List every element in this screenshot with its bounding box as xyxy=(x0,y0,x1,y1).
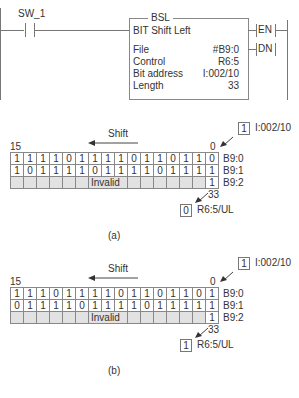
invalid-bit-cell xyxy=(167,312,180,324)
bit-cell: 1 xyxy=(180,165,193,177)
invalid-bit-cell xyxy=(37,177,50,189)
invalid-bit-cell: Invalid xyxy=(89,312,102,324)
invalid-bit-cell xyxy=(167,177,180,189)
invalid-bit-cell xyxy=(76,312,89,324)
bit-table: 11101111011011010111101111011111Invalid1 xyxy=(10,287,219,324)
param-file-name: File xyxy=(133,44,149,56)
invalid-bit-cell xyxy=(180,177,193,189)
invalid-bit-cell: Invalid xyxy=(89,177,102,189)
bit-shift-panel-a: Shift 15 0 1 I:002/10 111101111011011010… xyxy=(0,120,299,250)
bit-cell: 1 xyxy=(115,300,128,312)
bsl-title: BIT Shift Left xyxy=(133,25,191,37)
shift-arrow-icon xyxy=(88,275,138,281)
row-label-1: B9:1 xyxy=(223,165,244,177)
bit-cell: 1 xyxy=(37,165,50,177)
bit-cell: 1 xyxy=(24,300,37,312)
bit-cell: 1 xyxy=(24,153,37,165)
bit-cell: 1 xyxy=(154,300,167,312)
invalid-bit-cell xyxy=(128,312,141,324)
invalid-bit-cell xyxy=(24,177,37,189)
bit-cell: 1 xyxy=(37,288,50,300)
invalid-bit-cell xyxy=(24,312,37,324)
bit-cell: 1 xyxy=(206,312,219,324)
bit-cell: 1 xyxy=(50,153,63,165)
param-length-value: 33 xyxy=(228,80,239,92)
bit-cell: 1 xyxy=(50,300,63,312)
bit-cell: 1 xyxy=(167,288,180,300)
bit-cell: 1 xyxy=(102,288,115,300)
row-label-2: B9:2 xyxy=(223,177,244,189)
bit-row-b9-0: 1110111101101101 xyxy=(11,288,219,300)
bit-cell: 1 xyxy=(193,300,206,312)
unload-bit-box: 0 xyxy=(180,204,192,217)
bit-cell: 0 xyxy=(128,153,141,165)
bit-cell: 1 xyxy=(128,165,141,177)
bit-cell: 1 xyxy=(206,177,219,189)
bit-row-b9-1: 0111101111011111 xyxy=(11,300,219,312)
dn-wire xyxy=(248,49,256,50)
invalid-bit-cell xyxy=(50,312,63,324)
bit-cell: 1 xyxy=(102,153,115,165)
bit-row-b9-2: Invalid1 xyxy=(11,177,219,189)
bit-cell: 1 xyxy=(128,288,141,300)
output-dn: DN xyxy=(258,43,272,55)
bit-cell: 1 xyxy=(89,300,102,312)
bit-cell: 1 xyxy=(11,153,24,165)
bit-cell: 1 xyxy=(76,165,89,177)
param-control-name: Control xyxy=(133,56,165,68)
param-bitaddr-name: Bit address xyxy=(133,68,183,80)
bit-cell: 1 xyxy=(63,300,76,312)
en-wire-right xyxy=(276,30,287,31)
invalid-bit-cell xyxy=(63,312,76,324)
bit-table: 11110111101101101011110111101111Invalid1 xyxy=(10,152,219,189)
invalid-bit-cell xyxy=(63,177,76,189)
param-control-value: R6:5 xyxy=(218,56,239,68)
rung-wire-left xyxy=(0,30,24,31)
bit-cell: 1 xyxy=(180,300,193,312)
bit-cell: 1 xyxy=(180,153,193,165)
invalid-bit-cell xyxy=(50,177,63,189)
row-label-0: B9:0 xyxy=(223,153,244,165)
panel-caption: (a) xyxy=(108,230,120,242)
input-arrow-icon xyxy=(220,271,234,283)
bit-cell: 1 xyxy=(37,153,50,165)
bit-cell: 1 xyxy=(193,153,206,165)
bit-cell: 0 xyxy=(206,153,219,165)
bit-cell: 1 xyxy=(206,165,219,177)
invalid-bit-cell xyxy=(141,177,154,189)
param-bitaddr-value: I:002/10 xyxy=(203,68,239,80)
shift-arrow-icon xyxy=(88,140,138,146)
bit-cell: 1 xyxy=(63,165,76,177)
param-length-name: Length xyxy=(133,80,164,92)
dn-coil-right xyxy=(275,43,276,56)
invalid-bit-cell xyxy=(193,177,206,189)
bit-cell: 1 xyxy=(206,288,219,300)
bit-cell: 1 xyxy=(102,300,115,312)
invalid-bit-cell xyxy=(193,312,206,324)
bit-row-b9-1: 1011110111101111 xyxy=(11,165,219,177)
unload-bit-address: R6:5/UL xyxy=(197,339,234,351)
invalid-bit-cell xyxy=(11,312,24,324)
bit-cell: 1 xyxy=(11,165,24,177)
bit-cell: 1 xyxy=(24,288,37,300)
bit-cell: 1 xyxy=(63,288,76,300)
bit-cell: 1 xyxy=(115,165,128,177)
invalid-bit-cell xyxy=(141,312,154,324)
rung-wire-mid xyxy=(35,30,129,31)
unload-arrow-icon xyxy=(195,327,209,339)
shift-label: Shift xyxy=(108,263,128,275)
invalid-bit-cell xyxy=(154,312,167,324)
bit-cell: 0 xyxy=(115,288,128,300)
bit-cell: 0 xyxy=(11,300,24,312)
bit-cell: 0 xyxy=(193,288,206,300)
bit-cell: 0 xyxy=(154,165,167,177)
invalid-bit-cell xyxy=(128,177,141,189)
bit-cell: 1 xyxy=(206,300,219,312)
unload-bit-address: R6:5/UL xyxy=(197,204,234,216)
bit-cell: 1 xyxy=(154,153,167,165)
shift-label: Shift xyxy=(108,128,128,140)
en-wire xyxy=(248,30,256,31)
bit-cell: 1 xyxy=(193,165,206,177)
bit-cell: 1 xyxy=(76,153,89,165)
contact-label: SW_1 xyxy=(18,8,45,20)
